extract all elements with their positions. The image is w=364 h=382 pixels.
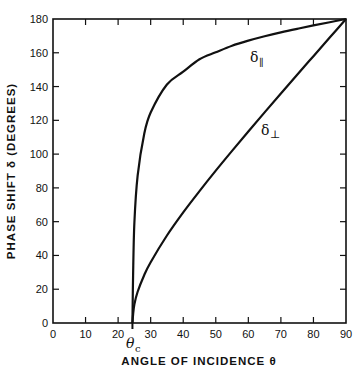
x-tick-label: 20 — [112, 328, 124, 340]
curve-delta-perpendicular — [132, 19, 346, 323]
x-tick-label: 80 — [307, 328, 319, 340]
y-tick-label: 120 — [30, 114, 48, 126]
delta-perp-subscript: ⊥ — [270, 128, 280, 141]
y-tick-label: 60 — [36, 216, 48, 228]
theta-c-annotation: θ c — [126, 335, 141, 354]
plot-frame — [53, 19, 346, 323]
theta-c-symbol: θ — [126, 335, 135, 351]
y-axis-ticks: 020406080100120140160180 — [30, 13, 346, 329]
y-tick-label: 140 — [30, 81, 48, 93]
delta-perp-label: δ ⊥ — [261, 122, 280, 141]
y-tick-label: 100 — [30, 148, 48, 160]
x-tick-label: 10 — [79, 328, 91, 340]
x-tick-label: 0 — [50, 328, 56, 340]
y-tick-label: 40 — [36, 249, 48, 261]
delta-parallel-symbol: δ — [250, 49, 258, 65]
y-tick-label: 160 — [30, 47, 48, 59]
x-tick-label: 90 — [340, 328, 352, 340]
plot-border — [53, 19, 346, 323]
phase-shift-chart: 0102030405060708090 02040608010012014016… — [0, 0, 364, 382]
x-tick-label: 70 — [275, 328, 287, 340]
y-axis-title: PHASE SHIFT δ (DEGREES) — [5, 83, 17, 259]
delta-parallel-label: δ ∥ — [250, 49, 264, 68]
delta-perp-symbol: δ — [261, 122, 269, 138]
theta-c-subscript: c — [135, 343, 141, 354]
x-tick-label: 40 — [177, 328, 189, 340]
y-tick-label: 80 — [36, 182, 48, 194]
x-axis-title: ANGLE OF INCIDENCE θ — [121, 355, 276, 367]
curves — [132, 19, 346, 323]
curve-delta-parallel — [132, 19, 346, 323]
delta-parallel-subscript: ∥ — [259, 57, 264, 68]
y-tick-label: 20 — [36, 283, 48, 295]
y-tick-label: 0 — [42, 317, 48, 329]
x-tick-label: 60 — [242, 328, 254, 340]
x-tick-label: 30 — [145, 328, 157, 340]
x-tick-label: 50 — [210, 328, 222, 340]
y-tick-label: 180 — [30, 13, 48, 25]
x-axis-ticks: 0102030405060708090 — [50, 19, 352, 340]
